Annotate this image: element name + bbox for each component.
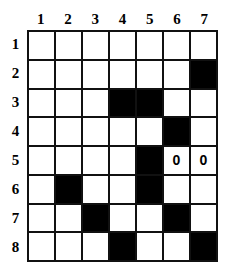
grid-puzzle-figure: 1234567 12345678 00 [0, 0, 230, 271]
row-header-1: 1 [5, 30, 26, 59]
grid-cell-r2c5[interactable] [137, 61, 164, 90]
grid-cell-r8c2[interactable] [56, 233, 83, 262]
grid-cell-r6c1[interactable] [29, 176, 56, 205]
grid-cell-r3c6[interactable] [164, 90, 191, 119]
column-header-5: 5 [136, 9, 163, 29]
row-header-6: 6 [5, 175, 26, 204]
grid-cell-r6c7[interactable] [191, 176, 218, 205]
grid-cell-r8c4[interactable] [110, 233, 137, 262]
cell-mark: 0 [173, 153, 181, 167]
grid-cell-r8c5[interactable] [137, 233, 164, 262]
grid-cell-r4c1[interactable] [29, 118, 56, 147]
grid-cell-r3c5[interactable] [137, 90, 164, 119]
grid-cell-r1c1[interactable] [29, 32, 56, 61]
column-header-3: 3 [82, 9, 109, 29]
row-header-5: 5 [5, 146, 26, 175]
grid-cell-r1c4[interactable] [110, 32, 137, 61]
grid-cell-r1c6[interactable] [164, 32, 191, 61]
grid-cell-r7c3[interactable] [83, 205, 110, 234]
grid-cell-r7c7[interactable] [191, 205, 218, 234]
row-header-2: 2 [5, 59, 26, 88]
grid-cell-r6c2[interactable] [56, 176, 83, 205]
grid-cell-r2c4[interactable] [110, 61, 137, 90]
grid-cell-r1c7[interactable] [191, 32, 218, 61]
grid-cell-r2c1[interactable] [29, 61, 56, 90]
grid-cell-r8c7[interactable] [191, 233, 218, 262]
grid-cell-r7c6[interactable] [164, 205, 191, 234]
grid-cell-r2c3[interactable] [83, 61, 110, 90]
grid-cell-r7c1[interactable] [29, 205, 56, 234]
grid-cell-r3c1[interactable] [29, 90, 56, 119]
grid-cell-r1c5[interactable] [137, 32, 164, 61]
grid-cell-r3c2[interactable] [56, 90, 83, 119]
grid-cell-r4c5[interactable] [137, 118, 164, 147]
grid-cell-r5c6[interactable]: 0 [164, 147, 191, 176]
grid-cell-r4c2[interactable] [56, 118, 83, 147]
grid-cell-r2c7[interactable] [191, 61, 218, 90]
grid-cell-r3c3[interactable] [83, 90, 110, 119]
row-header-4: 4 [5, 117, 26, 146]
cell-mark: 0 [200, 153, 208, 167]
grid-cell-r2c6[interactable] [164, 61, 191, 90]
grid-cell-r5c4[interactable] [110, 147, 137, 176]
grid-cell-r8c1[interactable] [29, 233, 56, 262]
grid-cell-r7c4[interactable] [110, 205, 137, 234]
row-header-3: 3 [5, 88, 26, 117]
grid-cell-r5c7[interactable]: 0 [191, 147, 218, 176]
row-header-8: 8 [5, 233, 26, 262]
grid-cell-r5c5[interactable] [137, 147, 164, 176]
column-header-6: 6 [163, 9, 190, 29]
grid-cell-r6c4[interactable] [110, 176, 137, 205]
grid-cell-r5c2[interactable] [56, 147, 83, 176]
row-header-7: 7 [5, 204, 26, 233]
grid-cell-r1c3[interactable] [83, 32, 110, 61]
grid-cell-r6c6[interactable] [164, 176, 191, 205]
grid-cell-r2c2[interactable] [56, 61, 83, 90]
column-header-row: 1234567 [27, 9, 218, 29]
row-header-column: 12345678 [5, 30, 26, 262]
puzzle-grid: 00 [27, 30, 218, 262]
grid-cell-r3c7[interactable] [191, 90, 218, 119]
column-header-7: 7 [191, 9, 218, 29]
grid-cell-r7c5[interactable] [137, 205, 164, 234]
grid-cell-r4c6[interactable] [164, 118, 191, 147]
column-header-1: 1 [27, 9, 54, 29]
grid-cell-r8c6[interactable] [164, 233, 191, 262]
grid-cell-r5c1[interactable] [29, 147, 56, 176]
grid-cell-r1c2[interactable] [56, 32, 83, 61]
column-header-4: 4 [109, 9, 136, 29]
grid-cell-r3c4[interactable] [110, 90, 137, 119]
grid-cell-r7c2[interactable] [56, 205, 83, 234]
grid-cell-r8c3[interactable] [83, 233, 110, 262]
grid-cell-r6c5[interactable] [137, 176, 164, 205]
column-header-2: 2 [54, 9, 81, 29]
grid-cell-r4c7[interactable] [191, 118, 218, 147]
grid-cell-r4c4[interactable] [110, 118, 137, 147]
grid-cell-r5c3[interactable] [83, 147, 110, 176]
grid-cell-r6c3[interactable] [83, 176, 110, 205]
grid-cell-r4c3[interactable] [83, 118, 110, 147]
